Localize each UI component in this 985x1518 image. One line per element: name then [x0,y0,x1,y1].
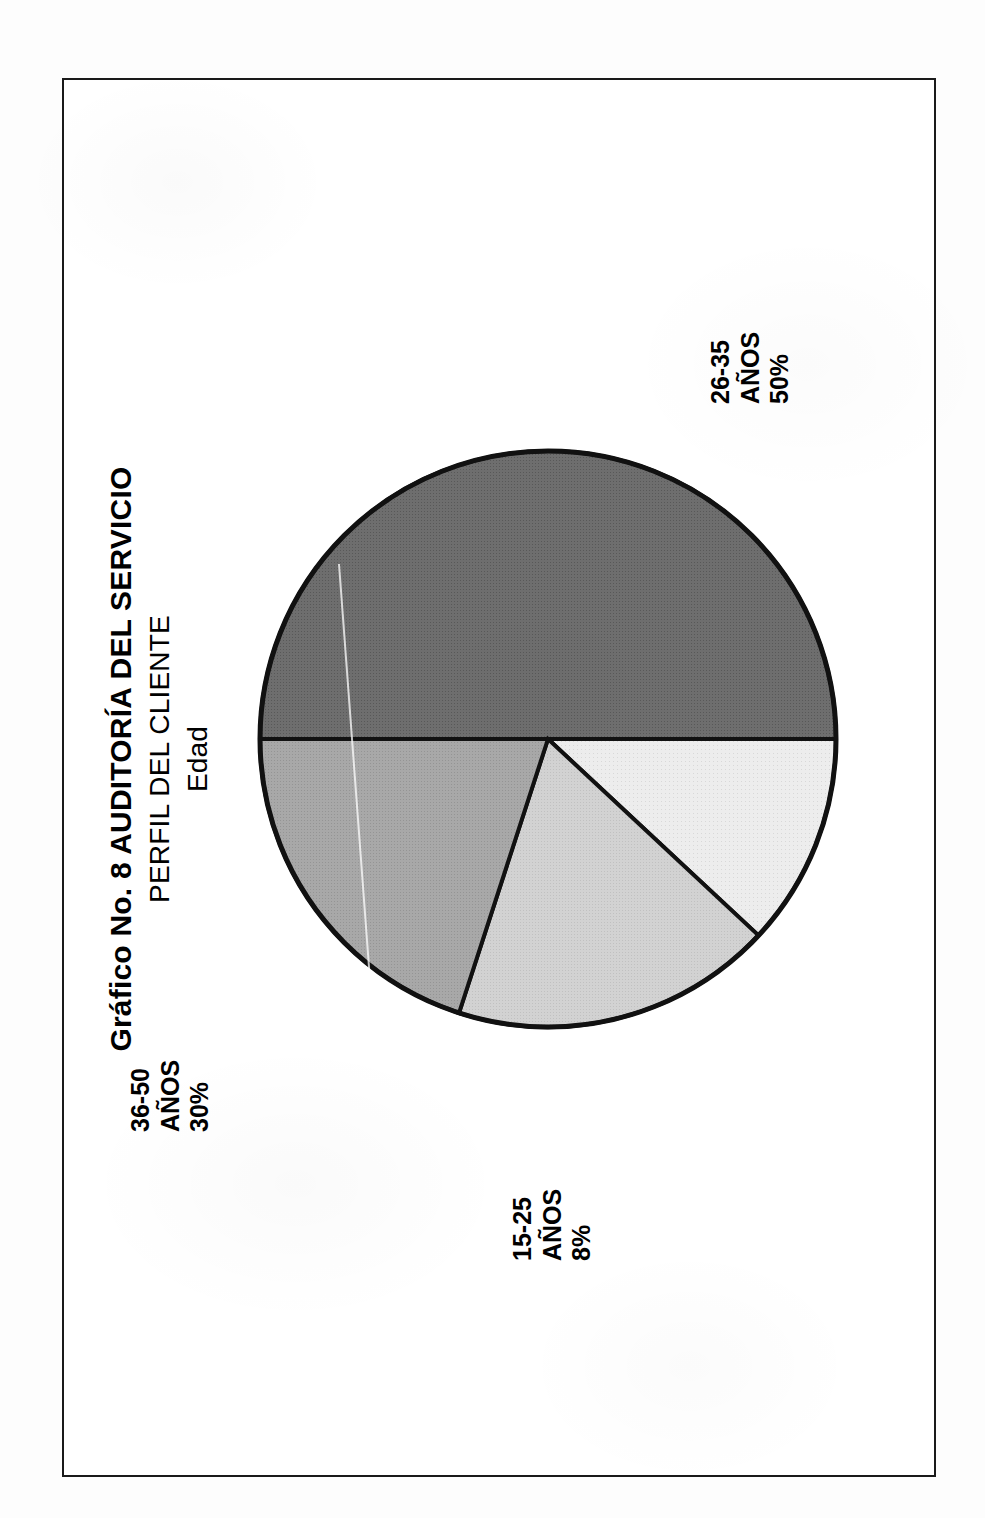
pie-label-15-25: 15-25 AÑOS 8% [508,1189,597,1261]
pie-slice-26-35 [260,451,836,739]
figure-variable-label: Edad [182,94,214,1424]
figure-stage: Gráfico No. 8 AUDITORÍA DEL SERVICIO PER… [78,94,908,1424]
pie-chart [253,444,843,1034]
pie-label-36-50: 36-50 AÑOS 30% [126,1060,215,1132]
pie-label-26-35: 26-35 AÑOS 50% [706,332,795,404]
figure-title-line-1: Gráfico No. 8 AUDITORÍA DEL SERVICIO [104,94,138,1424]
pie-chart-svg [253,444,843,1034]
figure-subtitle: PERFIL DEL CLIENTE [144,94,176,1424]
